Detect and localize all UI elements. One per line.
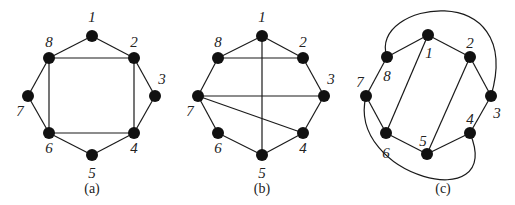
node-label-c-8: 8 [383,68,391,84]
node-label-a-2: 2 [130,34,138,50]
panel-a: 12345678 (a) [16,9,166,197]
node-b-1 [256,30,268,42]
edge-a-8-1 [49,36,92,58]
node-label-c-1: 1 [425,45,433,61]
node-label-c-6: 6 [382,145,390,161]
edge-b-7-4 [198,96,303,133]
node-c-4 [464,127,476,139]
node-label-c-5: 5 [419,133,427,149]
node-a-3 [149,90,161,102]
node-label-a-6: 6 [45,140,53,156]
node-label-b-2: 2 [299,34,307,50]
node-a-6 [43,127,55,139]
node-c-3 [485,90,497,102]
node-c-6 [380,127,392,139]
node-b-8 [212,52,224,64]
node-b-7 [192,90,204,102]
node-label-a-1: 1 [88,9,96,25]
node-b-2 [297,52,309,64]
caption-b: (b) [254,181,271,197]
node-a-8 [43,52,55,64]
node-a-7 [22,90,34,102]
node-c-8 [381,51,393,63]
edge-c-5-4 [427,133,470,154]
node-c-7 [360,90,372,102]
edge-b-7-8 [198,58,218,96]
node-label-a-4: 4 [130,140,138,156]
edge-c-2-5 [427,57,470,154]
edge-c-1-8 [387,35,428,57]
edge-b-3-4 [303,96,324,133]
edge-b-4-5 [262,133,303,155]
edge-c-1-6 [386,35,428,133]
node-label-c-3: 3 [492,105,501,121]
edge-a-3-4 [134,96,155,133]
edge-c-1-2 [428,35,470,57]
edge-b-8-1 [218,36,262,58]
node-a-1 [86,30,98,42]
caption-c: (c) [435,181,451,197]
node-label-a-7: 7 [16,103,25,119]
panel-c: 12345678 (c) [356,11,501,197]
node-label-b-4: 4 [299,140,307,156]
node-b-5 [256,149,268,161]
edge-b-2-3 [303,58,324,96]
edge-a-6-7 [28,96,49,133]
node-label-a-5: 5 [88,165,96,181]
edge-c-2-3 [470,57,491,96]
edge-a-7-8 [28,58,49,96]
node-b-3 [318,90,330,102]
node-c-2 [464,51,476,63]
node-label-b-7: 7 [186,103,195,119]
edge-b-1-2 [262,36,303,58]
edge-a-4-5 [92,133,134,155]
edge-a-5-6 [49,133,92,155]
edge-a-2-3 [134,58,155,96]
node-label-c-7: 7 [356,74,365,90]
node-b-6 [212,127,224,139]
node-label-b-3: 3 [326,71,335,87]
edge-a-1-2 [92,36,134,58]
node-label-a-8: 8 [45,34,53,50]
node-label-b-1: 1 [258,9,266,25]
caption-a: (a) [84,181,100,197]
curved-edge-c-8-3 [385,11,496,96]
node-label-c-2: 2 [466,35,474,51]
node-c-5 [421,148,433,160]
panel-b: 12345678 (b) [186,9,335,197]
edge-b-5-6 [218,133,262,155]
node-label-b-8: 8 [214,34,222,50]
node-a-4 [128,127,140,139]
node-a-2 [128,52,140,64]
node-label-b-6: 6 [214,140,222,156]
node-label-a-3: 3 [157,71,166,87]
node-a-5 [86,149,98,161]
node-label-c-4: 4 [466,111,474,127]
node-c-1 [422,29,434,41]
graph-figure: 12345678 (a) 12345678 (b) 12345678 (c) [0,0,515,205]
node-label-b-5: 5 [258,165,266,181]
node-b-4 [297,127,309,139]
edge-c-7-6 [366,96,386,133]
